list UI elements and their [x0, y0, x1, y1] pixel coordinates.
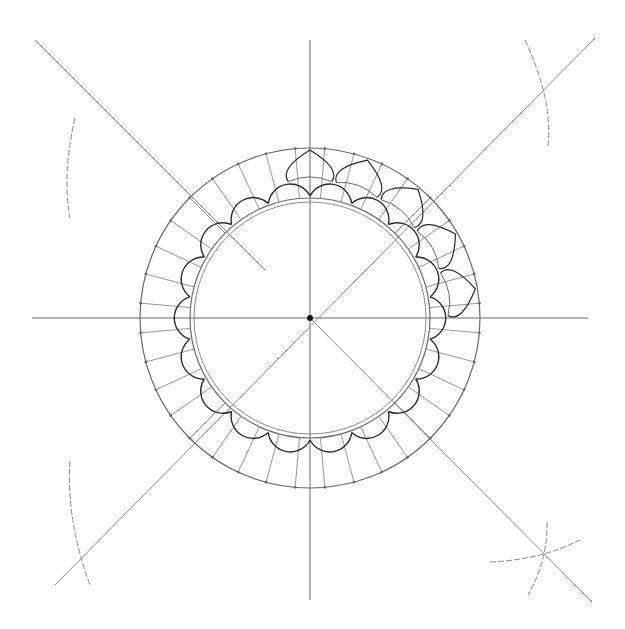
- division-tick: [380, 163, 383, 166]
- division-tick: [211, 456, 214, 459]
- radial-division-line: [266, 434, 279, 482]
- division-tick: [155, 245, 158, 248]
- petal-scallop: [231, 198, 268, 225]
- leaf-motif: [417, 225, 455, 269]
- division-tick: [211, 177, 214, 180]
- radial-division-line: [408, 387, 449, 416]
- radial-division-line: [320, 149, 324, 199]
- diagonal-line: [310, 318, 592, 602]
- division-tick: [294, 486, 297, 489]
- division-tick: [265, 152, 268, 155]
- division-tick: [237, 163, 240, 166]
- arc-bottom-right-2: [528, 522, 547, 595]
- leaf-motif: [441, 270, 476, 317]
- division-tick: [139, 302, 142, 305]
- division-tick: [188, 196, 191, 199]
- radial-division-line: [212, 179, 241, 220]
- arc-bottom-right-1: [490, 540, 580, 562]
- division-tick: [406, 456, 409, 459]
- radial-division-line: [238, 427, 259, 472]
- diagonal-line: [35, 40, 265, 270]
- radial-division-line: [430, 328, 480, 332]
- radial-division-line: [426, 349, 474, 362]
- division-tick: [448, 414, 451, 417]
- division-tick: [144, 273, 147, 276]
- division-tick: [478, 331, 481, 334]
- division-tick: [139, 331, 142, 334]
- division-tick: [155, 388, 158, 391]
- radial-division-line: [419, 246, 464, 267]
- division-tick: [463, 245, 466, 248]
- radial-division-line: [295, 149, 299, 199]
- drawing-canvas: [0, 0, 625, 629]
- petal-scallop: [201, 223, 232, 257]
- petal-scallop: [352, 198, 389, 225]
- radial-division-line: [320, 438, 324, 488]
- rosette-sketch: [0, 0, 625, 629]
- arc-top-left: [67, 118, 75, 218]
- radial-division-line: [395, 403, 430, 438]
- radial-division-line: [430, 303, 480, 307]
- radial-division-line: [379, 179, 408, 220]
- petal-scallop: [231, 412, 268, 439]
- radial-division-line: [141, 328, 191, 332]
- radial-division-line: [212, 416, 241, 457]
- radial-division-line: [171, 220, 212, 249]
- guide-lines: [32, 38, 595, 602]
- division-tick: [294, 147, 297, 150]
- radial-division-line: [156, 369, 201, 390]
- radial-division-line: [146, 349, 194, 362]
- radial-division-line: [379, 416, 408, 457]
- division-tick: [169, 414, 172, 417]
- radial-division-line: [266, 154, 279, 202]
- radial-division-line: [341, 154, 354, 202]
- radial-division-line: [419, 369, 464, 390]
- radial-division-line: [295, 438, 299, 488]
- division-tick: [188, 437, 191, 440]
- radial-division-line: [190, 403, 225, 438]
- division-tick: [323, 147, 326, 150]
- division-tick: [478, 302, 481, 305]
- division-tick: [353, 481, 356, 484]
- radial-division-line: [171, 387, 212, 416]
- petal-scallop: [201, 379, 232, 413]
- leaf-inner-curve: [441, 273, 450, 316]
- division-tick: [473, 273, 476, 276]
- division-tick: [169, 219, 172, 222]
- division-tick: [237, 471, 240, 474]
- division-tick: [429, 437, 432, 440]
- radial-division-line: [361, 427, 382, 472]
- arc-top-right: [525, 40, 549, 146]
- division-tick: [353, 152, 356, 155]
- division-tick: [323, 486, 326, 489]
- division-tick: [473, 361, 476, 364]
- radial-division-line: [341, 434, 354, 482]
- radial-division-line: [238, 164, 259, 209]
- division-tick: [380, 471, 383, 474]
- petal-scallop: [388, 379, 419, 413]
- center-point: [307, 315, 313, 321]
- division-tick: [429, 196, 432, 199]
- division-tick: [265, 481, 268, 484]
- division-tick: [463, 388, 466, 391]
- leaf-motifs: [286, 150, 475, 317]
- radial-division-line: [395, 198, 430, 233]
- division-tick: [406, 177, 409, 180]
- radial-division-line: [361, 164, 382, 209]
- petal-scallop: [352, 412, 389, 439]
- radial-division-line: [156, 246, 201, 267]
- arc-bottom-left: [69, 461, 90, 585]
- radial-division-line: [190, 198, 225, 233]
- radial-division-line: [146, 274, 194, 287]
- radial-division-line: [141, 303, 191, 307]
- division-tick: [448, 219, 451, 222]
- division-tick: [144, 361, 147, 364]
- leaf-inner-curve: [336, 182, 377, 197]
- diagonal-line: [55, 38, 595, 585]
- center-dot: [307, 315, 313, 321]
